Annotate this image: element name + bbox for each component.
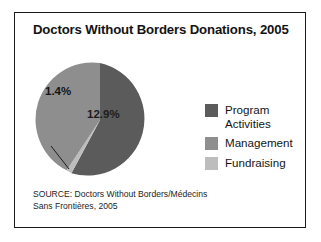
chart-title: Doctors Without Borders Donations, 2005 [33, 22, 293, 37]
legend-label-management: Management [225, 136, 293, 150]
slice-label-fundraising: 1.4% [45, 85, 71, 97]
source-line-2: Sans Frontières, 2005 [33, 201, 283, 213]
legend-swatch-management [205, 137, 218, 150]
legend-item-program-activities: Program Activities [205, 103, 315, 130]
source-note: SOURCE: Doctors Without Borders/Médecins… [33, 189, 283, 212]
legend-swatch-program-activities [205, 104, 218, 117]
chart-figure: Doctors Without Borders Donations, 2005 … [0, 0, 321, 242]
legend-swatch-fundraising [205, 157, 218, 170]
legend-label-program-activities: Program Activities [225, 103, 309, 130]
source-line-1: SOURCE: Doctors Without Borders/Médecins [33, 189, 283, 201]
legend-item-management: Management [205, 136, 315, 150]
legend-item-fundraising: Fundraising [205, 156, 315, 170]
legend-label-fundraising: Fundraising [225, 156, 286, 170]
chart-frame: Doctors Without Borders Donations, 2005 … [14, 12, 306, 228]
pie-chart: 85.7% 12.9% 1.4% [25, 45, 185, 185]
slice-label-management: 12.9% [87, 108, 120, 120]
chart-legend: Program Activities Management Fundraisin… [205, 103, 315, 176]
